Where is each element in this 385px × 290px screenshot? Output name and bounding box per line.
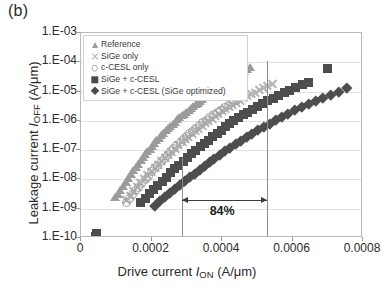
span-arrow-line [182, 200, 267, 201]
x-axis-tick-mark [362, 237, 363, 241]
marker-glyph [91, 65, 98, 72]
x-axis-tick-label: 0 [45, 241, 115, 255]
legend-item-label: SiGe only [101, 51, 138, 62]
x-axis-tick-mark [292, 237, 293, 241]
x-axis-title-units: (A/μm) [214, 264, 257, 279]
data-point [323, 64, 332, 73]
x-axis-title-subscript: ON [199, 269, 213, 280]
marker-glyph [91, 76, 98, 83]
x-axis-tick-label: 0.0002 [116, 241, 186, 255]
x-axis-tick-label: 0.0008 [327, 241, 385, 255]
legend-marker-diamond-icon [88, 86, 101, 97]
y-axis-tick-label: 1.E-03 [7, 24, 77, 38]
y-axis-tick-label: 1.E-08 [7, 170, 77, 184]
marker-glyph [90, 87, 99, 96]
plot-area: 84% ReferenceSiGe onlyc-CESL onlySiGe + … [80, 32, 362, 237]
y-axis-tick-label: 1.E-04 [7, 53, 77, 67]
legend-item-label: SiGe + c-CESL (SiGe optimized) [101, 86, 226, 97]
legend-item: SiGe + c-CESL [88, 74, 243, 86]
panel-label: (b) [8, 2, 28, 20]
legend-marker-triangle-icon [88, 39, 101, 50]
legend-item-label: SiGe + c-CESL [101, 74, 160, 85]
legend-marker-circle-icon [88, 62, 101, 73]
marker-glyph [92, 42, 98, 48]
legend-item: Reference [88, 39, 243, 51]
legend-item: c-CESL only [88, 62, 243, 74]
marker-glyph [91, 52, 99, 60]
span-arrow-head-left [182, 197, 188, 203]
x-axis-tick-mark [221, 237, 222, 241]
y-axis-tick-label: 1.E-06 [7, 112, 77, 126]
y-axis-tick-label: 1.E-05 [7, 83, 77, 97]
x-axis-tick-label: 0.0004 [186, 241, 256, 255]
legend-item: SiGe only [88, 51, 243, 63]
y-axis-tick-label: 1.E-09 [7, 200, 77, 214]
span-arrow-head-right [261, 197, 267, 203]
x-axis-tick-mark [151, 237, 152, 241]
data-point [267, 77, 278, 88]
x-axis-tick-mark [80, 237, 81, 241]
legend-marker-square-icon [88, 74, 101, 85]
x-axis-title-prefix: Drive current [118, 264, 196, 279]
legend-item: SiGe + c-CESL (SiGe optimized) [88, 85, 243, 97]
x-axis-title: Drive current ION (A/μm) [0, 264, 374, 280]
legend-item-label: c-CESL only [101, 62, 148, 73]
legend-marker-cross-icon [88, 51, 101, 62]
legend: ReferenceSiGe onlyc-CESL onlySiGe + c-CE… [83, 35, 248, 101]
data-point [92, 229, 101, 237]
legend-item-label: Reference [101, 39, 141, 50]
percent-improvement-label: 84% [210, 204, 235, 218]
data-point [304, 78, 313, 87]
x-axis-tick-label: 0.0006 [257, 241, 327, 255]
guide-line-right [267, 61, 268, 237]
y-axis-tick-label: 1.E-07 [7, 141, 77, 155]
